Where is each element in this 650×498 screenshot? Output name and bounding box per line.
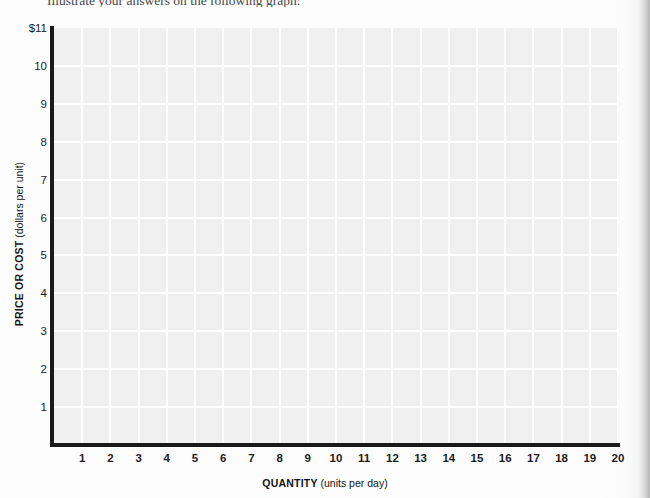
x-tick-label: 10 [321,452,351,464]
x-tick-label: 16 [490,452,520,464]
gridline-horizontal [54,406,618,408]
gridline-vertical [589,28,591,445]
gridline-vertical [391,28,393,445]
x-tick-label: 9 [293,452,323,464]
gridline-horizontal [54,368,618,370]
y-axis-line [50,26,54,447]
x-tick-label: 18 [547,452,577,464]
gridline-vertical [561,28,563,445]
x-tick-label: 3 [124,452,154,464]
gridline-vertical [363,28,365,445]
gridline-vertical [138,28,140,445]
gridline-horizontal [54,292,618,294]
gridline-horizontal [54,65,618,67]
x-tick-label: 2 [95,452,125,464]
x-tick-label: 11 [349,452,379,464]
gridline-vertical [279,28,281,445]
x-tick-label: 14 [434,452,464,464]
x-tick-label: 15 [462,452,492,464]
y-axis-title-strong: PRICE OR COST [13,241,25,326]
x-tick-label: 8 [265,452,295,464]
scanned-worksheet-page: Illustrate your answers on the following… [0,0,650,498]
y-tick-label: $11 [1,22,47,34]
plot-area [54,28,618,445]
x-tick-label: 13 [406,452,436,464]
x-tick-label: 19 [575,452,605,464]
y-axis-title: PRICE OR COST (dollars per unit) [13,139,25,349]
gridline-horizontal [54,179,618,181]
x-tick-label: 6 [208,452,238,464]
gridline-vertical [194,28,196,445]
gridline-vertical [222,28,224,445]
x-tick-label: 7 [236,452,266,464]
gridline-vertical [250,28,252,445]
gridline-vertical [504,28,506,445]
gridline-vertical [81,28,83,445]
x-axis-line [50,443,620,447]
gridline-horizontal [54,103,618,105]
gridline-horizontal [54,254,618,256]
gridline-vertical [617,28,618,445]
x-tick-label: 5 [180,452,210,464]
x-axis-title: QUANTITY (units per day) [0,477,650,489]
x-axis-title-unit: (units per day) [321,477,388,489]
gridline-horizontal [54,141,618,143]
y-tick-label: 9 [1,98,47,110]
x-tick-label: 17 [518,452,548,464]
y-tick-label: 2 [1,363,47,375]
y-tick-label: 10 [1,60,47,72]
x-axis-title-strong: QUANTITY [262,477,317,489]
gridline-vertical [109,28,111,445]
gridline-vertical [335,28,337,445]
gridline-vertical [532,28,534,445]
gridline-vertical [476,28,478,445]
gridline-vertical [448,28,450,445]
gridline-vertical [307,28,309,445]
x-tick-label: 1 [67,452,97,464]
x-tick-label: 4 [152,452,182,464]
gridline-horizontal [54,330,618,332]
gridline-horizontal [54,217,618,219]
y-tick-label: 1 [1,401,47,413]
gridline-vertical [420,28,422,445]
y-axis-title-unit: (dollars per unit) [13,162,25,238]
x-tick-label: 20 [603,452,633,464]
x-tick-label: 12 [377,452,407,464]
graph-figure: $1110987654321 PRICE OR COST (dollars pe… [0,0,650,498]
gridline-vertical [166,28,168,445]
